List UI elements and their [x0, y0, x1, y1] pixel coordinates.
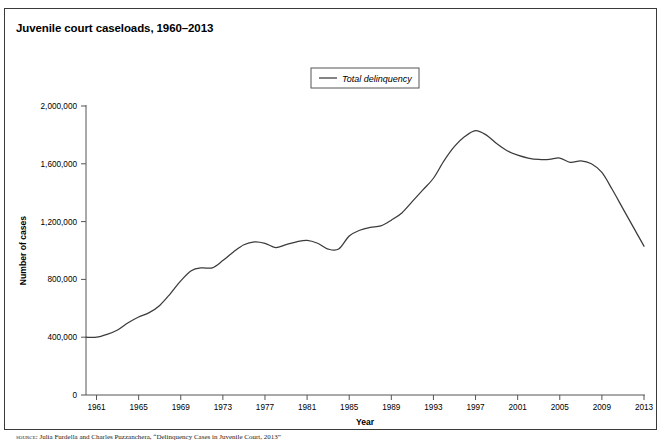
- source-note: source: Julia Furdella and Charles Puzza…: [16, 433, 656, 441]
- x-axis-title: Year: [356, 417, 375, 427]
- legend-label-total-delinquency: Total delinquency: [342, 74, 412, 84]
- x-tick-label: 2013: [635, 403, 654, 412]
- x-tick-label: 1977: [256, 403, 275, 412]
- x-tick-label: 1985: [340, 403, 359, 412]
- x-tick-label: 1969: [172, 403, 191, 412]
- y-tick-label: 2,000,000: [41, 102, 78, 111]
- x-tick-label: 1961: [87, 403, 106, 412]
- y-tick-label: 1,600,000: [41, 160, 78, 169]
- y-tick-label: 800,000: [47, 275, 77, 284]
- y-axis-title: Number of cases: [18, 216, 28, 285]
- x-tick-label: 2001: [509, 403, 528, 412]
- x-tick-label: 1997: [466, 403, 485, 412]
- line-chart: 0400,000800,0001,200,0001,600,0002,000,0…: [4, 8, 657, 430]
- source-label: source:: [16, 433, 38, 441]
- series-total-delinquency: [86, 131, 644, 338]
- y-axis-tick-group: 0400,000800,0001,200,0001,600,0002,000,0…: [41, 102, 86, 400]
- source-text: Julia Furdella and Charles Puzzanchera, …: [39, 433, 280, 441]
- figure-page: Juvenile court caseloads, 1960–2013 0400…: [0, 0, 666, 443]
- y-tick-label: 1,200,000: [41, 218, 78, 227]
- x-axis-tick-group: 1961196519691973197719811985198919931997…: [87, 395, 653, 412]
- x-tick-label: 1989: [382, 403, 401, 412]
- y-tick-label: 0: [72, 391, 77, 400]
- x-tick-label: 1993: [424, 403, 443, 412]
- x-tick-label: 2009: [593, 403, 612, 412]
- chart-legend: Total delinquency: [311, 68, 419, 88]
- x-tick-label: 1973: [214, 403, 233, 412]
- x-tick-label: 2005: [551, 403, 570, 412]
- y-tick-label: 400,000: [47, 333, 77, 342]
- x-tick-label: 1981: [298, 403, 317, 412]
- x-tick-label: 1965: [130, 403, 149, 412]
- chart-canvas: 0400,000800,0001,200,0001,600,0002,000,0…: [4, 8, 657, 430]
